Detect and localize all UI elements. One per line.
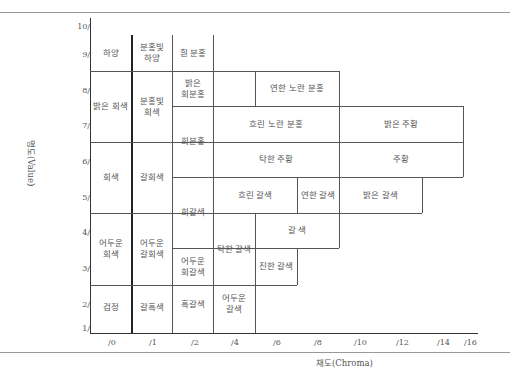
grid-v-8b [297, 248, 298, 285]
x-tick-4: /4 [231, 338, 239, 347]
x-axis [90, 333, 478, 334]
cell-dark-grayish-brown: 어두운 회갈색 [173, 248, 213, 285]
x-tick-16: /16 [464, 338, 477, 347]
bottom-rule [0, 352, 510, 353]
y-tick-3: 3/ [72, 264, 90, 273]
x-tick-0: /0 [108, 338, 116, 347]
cell-light-grayish-pink: 밝은 회분홍 [173, 71, 213, 106]
cell-grayish-brown: 회갈색 [173, 177, 213, 248]
cell-black: 검정 [90, 285, 131, 329]
y-tick-8: 8/ [72, 86, 90, 95]
cell-dark-gray: 어두운 회색 [90, 213, 131, 285]
cell-gray: 회색 [90, 142, 131, 213]
cell-deep-brown: 진한 갈색 [255, 248, 297, 285]
y-tick-2: 2/ [72, 300, 90, 309]
y-tick-4: 4/ [72, 228, 90, 237]
cell-light-orange: 밝은 주황 [339, 106, 463, 142]
x-tick-8: /8 [314, 338, 322, 347]
top-rule [0, 12, 510, 13]
y-tick-5: 5/ [72, 193, 90, 202]
cell-dark-brownish-gray: 어두운 갈회색 [132, 213, 172, 285]
x-tick-1: /1 [149, 338, 157, 347]
cell-grayish-pink: 회분홍 [173, 106, 213, 177]
cell-dark-brown: 어두운 갈색 [213, 285, 255, 323]
y-tick-1: 1/ [72, 324, 90, 333]
y-tick-9: 9/ [72, 50, 90, 59]
cell-brownish-gray: 갈회색 [132, 142, 172, 213]
cell-soft-yellowish-pink: 흐린 노란 분홍 [213, 106, 339, 142]
cell-soft-brown: 흐린 갈색 [213, 177, 297, 213]
x-tick-6: /6 [273, 338, 281, 347]
cell-brownish-black: 갈흑색 [132, 285, 172, 329]
cell-pale-yellowish-pink: 연한 노란 분홍 [255, 71, 339, 106]
grid-v-14a [422, 177, 423, 213]
x-tick-14: /14 [437, 338, 450, 347]
cell-pinkish-white: 분홍빛 하양 [132, 35, 172, 71]
cell-white-pink: 흰 분홍 [173, 35, 213, 71]
cell-orange: 주황 [339, 142, 463, 177]
y-tick-7: 7/ [72, 121, 90, 130]
y-tick-6: 6/ [72, 157, 90, 166]
cell-pinkish-gray: 분홍빛 회색 [132, 71, 172, 142]
figure-caption [100, 372, 410, 380]
cell-dull-brown: 탁한 갈색 [213, 213, 255, 285]
y-tick-10: 10/ [72, 22, 90, 31]
cell-blackish-brown: 흑갈색 [173, 285, 213, 323]
cell-light-gray: 밝은 회색 [90, 71, 131, 142]
x-tick-12: /12 [396, 338, 409, 347]
x-axis-label: 채도(Chroma) [316, 356, 373, 368]
cell-white: 하양 [90, 35, 131, 71]
grid-v-16 [463, 106, 464, 177]
cell-dull-orange: 탁한 주황 [213, 142, 339, 177]
x-tick-10: /10 [354, 338, 367, 347]
y-axis-label: 명도(Value) [26, 140, 38, 186]
cell-brown: 갈 색 [255, 213, 339, 248]
x-tick-2: /2 [191, 338, 199, 347]
cell-pale-brown: 연한 갈색 [297, 177, 339, 213]
cell-light-brown: 밝은 갈색 [339, 177, 422, 213]
